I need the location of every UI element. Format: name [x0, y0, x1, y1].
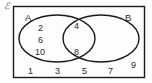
set-a-label: A: [25, 13, 31, 22]
region-outside-value-0: 1: [28, 67, 33, 76]
region-intersection-value-0: 4: [74, 22, 79, 31]
region-outside-value-2: 5: [82, 67, 87, 76]
region-a-only-value-2: 10: [35, 48, 45, 57]
set-b-label: B: [125, 13, 131, 22]
region-intersection-value-1: 8: [74, 48, 79, 57]
region-outside-value-4: 9: [131, 61, 136, 70]
region-a-only-value-0: 2: [38, 24, 43, 33]
region-outside-value-1: 3: [55, 67, 60, 76]
region-outside-value-3: 7: [108, 67, 113, 76]
region-a-only-value-1: 6: [38, 36, 43, 45]
venn-diagram-figure: ℰ A B 2 6 10 4 8 1 3 5 7 9: [0, 0, 152, 83]
